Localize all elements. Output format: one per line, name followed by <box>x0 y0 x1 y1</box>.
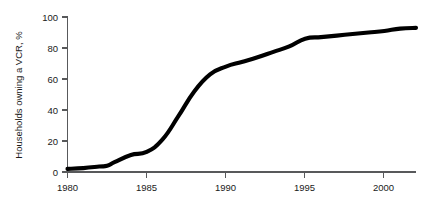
y-tick-label-100: 100 <box>42 12 58 23</box>
chart-figure: Households owning a VCR, % 0 20 40 60 80… <box>0 0 433 208</box>
y-tick-label-80: 80 <box>47 43 58 54</box>
x-tick-label-1985: 1985 <box>136 182 157 193</box>
line-chart: Households owning a VCR, % 0 20 40 60 80… <box>0 0 433 208</box>
x-tick-label-1990: 1990 <box>215 182 236 193</box>
y-tick-label-40: 40 <box>47 105 58 116</box>
y-axis-title: Households owning a VCR, % <box>13 31 24 159</box>
x-tick-label-1980: 1980 <box>57 182 78 193</box>
x-tick-label-2000: 2000 <box>373 182 394 193</box>
y-tick-label-0: 0 <box>53 167 58 178</box>
y-tick-label-20: 20 <box>47 136 58 147</box>
x-tick-label-1995: 1995 <box>294 182 315 193</box>
y-tick-label-60: 60 <box>47 74 58 85</box>
